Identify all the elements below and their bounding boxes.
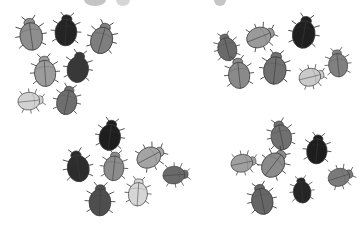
beetle-a5	[60, 48, 97, 88]
beetle-a2	[49, 11, 84, 51]
beetle-c6	[123, 175, 153, 211]
beetle-a6	[13, 80, 47, 123]
top-fragment-right	[116, 0, 130, 6]
beetle-b5	[256, 48, 294, 89]
beetle-a7	[49, 81, 85, 120]
beetle-c7	[83, 181, 116, 220]
beetle-b3	[283, 11, 325, 55]
top-fragment-far	[214, 0, 226, 6]
beetle-d5	[320, 155, 359, 199]
beetle-b7	[322, 43, 354, 86]
beetle-c5	[159, 157, 191, 193]
top-fragment-left	[84, 0, 106, 6]
beetle-a1	[12, 14, 51, 56]
beetle-figure-canvas	[0, 0, 359, 225]
beetle-d6	[287, 175, 318, 208]
beetle-b4	[220, 54, 258, 93]
